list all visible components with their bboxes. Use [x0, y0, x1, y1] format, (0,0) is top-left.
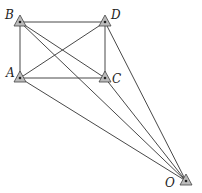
point-dot [104, 77, 107, 80]
triangle-marker-icon [99, 71, 111, 82]
point-label-B: B [4, 8, 14, 22]
geometry-figure: BDACO [0, 0, 202, 193]
segment-BO [20, 22, 186, 181]
point-labels: BDACO [4, 8, 175, 190]
triangle-marker-icon [14, 15, 26, 26]
point-label-D: D [110, 8, 121, 22]
segments [20, 22, 186, 181]
segment-DO [105, 22, 186, 181]
segment-CO [105, 78, 186, 181]
point-label-O: O [165, 176, 175, 190]
diagram: BDACO [0, 0, 202, 193]
point-markers [14, 15, 192, 185]
triangle-marker-icon [99, 15, 111, 26]
point-label-A: A [5, 66, 15, 80]
segment-AO [20, 78, 186, 181]
point-dot [104, 21, 107, 24]
point-dot [19, 77, 22, 80]
point-dot [185, 180, 188, 183]
triangle-marker-icon [14, 71, 26, 82]
point-label-C: C [112, 72, 121, 86]
point-dot [19, 21, 22, 24]
